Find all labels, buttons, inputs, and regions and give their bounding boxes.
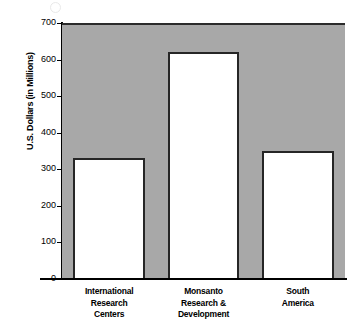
y-tick-label-300: 300: [30, 164, 56, 173]
y-axis-tick-labels: 700 600 500 400 300 200 100 0: [26, 0, 56, 335]
x-axis-label-line: Development: [156, 309, 250, 321]
x-axis-label-south-america: SouthAmerica: [251, 286, 345, 309]
x-axis-label-line: International: [62, 286, 156, 298]
x-axis-label-monsanto-research-development: MonsantoResearch &Development: [156, 286, 250, 321]
x-axis-label-international-research-centers: InternationalResearchCenters: [62, 286, 156, 321]
y-tick-label-400: 400: [30, 128, 56, 137]
bar-south-america[interactable]: [262, 151, 334, 279]
x-axis-label-line: Research &: [156, 298, 250, 310]
x-axis-label-line: America: [251, 298, 345, 310]
x-axis-label-line: Centers: [62, 309, 156, 321]
x-axis-label-line: Research: [62, 298, 156, 310]
y-tick-label-700: 700: [30, 18, 56, 27]
y-tick-label-600: 600: [30, 55, 56, 64]
x-axis-label-line: South: [251, 286, 345, 298]
bar-chart: U.S. Dollars (in Millions) 700 600 500 4…: [0, 0, 354, 335]
y-tick-label-200: 200: [30, 201, 56, 210]
x-axis-label-line: Monsanto: [156, 286, 250, 298]
bar-monsanto-research-development[interactable]: [168, 52, 240, 279]
plot-area: [62, 23, 345, 279]
bar-international-research-centers[interactable]: [73, 158, 145, 279]
x-axis-line: [40, 278, 347, 280]
y-tick-label-500: 500: [30, 91, 56, 100]
y-tick-label-100: 100: [30, 237, 56, 246]
